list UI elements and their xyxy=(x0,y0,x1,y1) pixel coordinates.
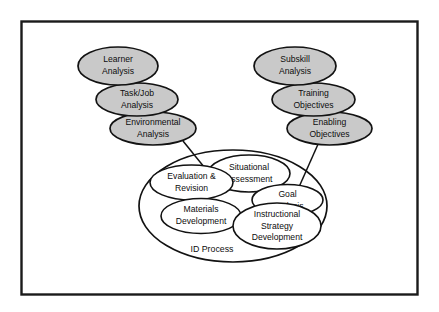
node-task-job-analysis[interactable]: Task/Job Analysis xyxy=(96,83,178,116)
materials-development-label-line2: Development xyxy=(176,216,227,226)
training-objectives-label-line2: Objectives xyxy=(293,100,333,110)
materials-development-label-line1: Materials xyxy=(184,204,219,214)
evaluation-revision-label-line2: Revision xyxy=(175,183,208,193)
node-subskill-analysis[interactable]: Subskill Analysis xyxy=(254,47,336,85)
node-training-objectives[interactable]: Training Objectives xyxy=(272,83,355,116)
instructional-strategy-development-label-line2: Strategy xyxy=(261,221,294,231)
subskill-analysis-label-line1: Subskill xyxy=(280,54,310,64)
node-learner-analysis[interactable]: Learner Analysis xyxy=(78,47,158,85)
task-job-analysis-label-line1: Task/Job xyxy=(120,88,154,98)
environmental-analysis-label-line2: Analysis xyxy=(137,129,169,139)
id-process-label: ID Process xyxy=(190,244,234,254)
node-evaluation-revision[interactable]: Evaluation & Revision xyxy=(150,165,233,200)
goal-analysis-label-line1: Goal xyxy=(278,189,296,199)
situational-assessment-label-line1: Situational xyxy=(229,162,269,172)
enabling-objectives-label-line2: Objectives xyxy=(309,129,349,139)
node-environmental-analysis[interactable]: Environmental Analysis xyxy=(110,112,196,145)
diagram-canvas: Situational Assessment Evaluation & Revi… xyxy=(0,0,439,312)
environmental-analysis-label-line1: Environmental xyxy=(126,117,181,127)
learner-analysis-label-line2: Analysis xyxy=(102,66,134,76)
instructional-strategy-development-label-line3: Development xyxy=(252,232,303,242)
training-objectives-label-line1: Training xyxy=(298,88,329,98)
evaluation-revision-label-line1: Evaluation & xyxy=(167,171,216,181)
node-instructional-strategy-development[interactable]: Instructional Strategy Development xyxy=(233,203,321,249)
node-materials-development[interactable]: Materials Development xyxy=(161,199,241,234)
learner-analysis-label-line1: Learner xyxy=(103,54,133,64)
enabling-objectives-label-line1: Enabling xyxy=(313,117,347,127)
node-enabling-objectives[interactable]: Enabling Objectives xyxy=(287,112,372,145)
subskill-analysis-label-line2: Analysis xyxy=(279,66,311,76)
instructional-design-process-diagram: Situational Assessment Evaluation & Revi… xyxy=(0,0,439,312)
task-job-analysis-label-line2: Analysis xyxy=(121,100,153,110)
instructional-strategy-development-label-line1: Instructional xyxy=(254,209,300,219)
